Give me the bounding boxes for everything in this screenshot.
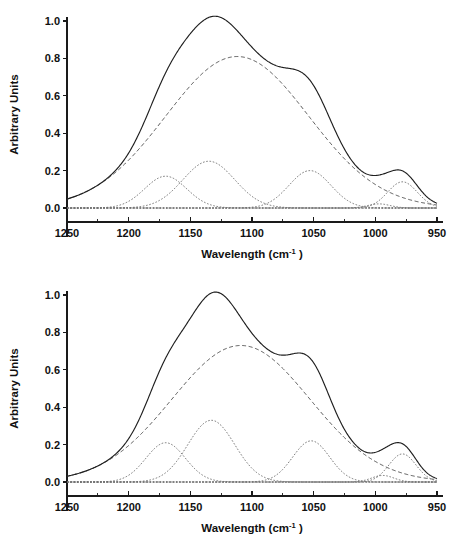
x-tick-label: 1200	[116, 227, 140, 239]
spectrum-panel-bottom: 0.00.20.40.60.81.01250120011501100105010…	[0, 274, 455, 547]
x-tick-label: 1000	[363, 501, 387, 513]
y-tick-label: 0.0	[45, 202, 60, 214]
component-curve-1170	[67, 443, 437, 482]
envelope-curve	[67, 16, 437, 203]
x-tick-label: 1050	[301, 227, 325, 239]
y-axis-title: Arbitrary Units	[8, 348, 20, 429]
x-tick-label: 950	[428, 227, 446, 239]
y-tick-label: 0.8	[45, 326, 60, 338]
x-axis-title-tail: )	[296, 522, 303, 534]
y-tick-label: 0.8	[45, 52, 60, 64]
x-tick-label: 1150	[178, 501, 202, 513]
x-tick-label: 1200	[116, 501, 140, 513]
y-tick-label: 0.6	[45, 364, 60, 376]
x-tick-label: 1250	[55, 227, 79, 239]
x-tick-label: 1050	[301, 501, 325, 513]
x-tick-label: 1100	[240, 501, 264, 513]
broad-component-curve	[67, 345, 437, 479]
y-tick-label: 1.0	[45, 289, 60, 301]
y-tick-label: 0.2	[45, 439, 60, 451]
x-tick-label: 1150	[178, 227, 202, 239]
broad-component-curve	[67, 57, 437, 205]
x-axis-title-superscript: -1	[289, 247, 296, 256]
x-axis-title-superscript: -1	[289, 521, 296, 530]
x-tick-label: 950	[428, 501, 446, 513]
y-tick-label: 0.4	[45, 127, 61, 139]
x-tick-label: 1100	[240, 227, 264, 239]
component-curve-1135	[67, 161, 437, 208]
spectra-figure: 0.00.20.40.60.81.01250120011501100105010…	[0, 0, 455, 547]
spectrum-panel-top: 0.00.20.40.60.81.01250120011501100105010…	[0, 0, 455, 273]
y-tick-label: 1.0	[45, 15, 60, 27]
component-curve-1053	[67, 171, 437, 208]
component-curve-1170	[67, 176, 437, 208]
y-tick-label: 0.0	[45, 476, 60, 488]
y-tick-label: 0.4	[45, 401, 61, 413]
y-tick-label: 0.2	[45, 165, 60, 177]
x-tick-label: 1250	[55, 501, 79, 513]
x-tick-label: 1000	[363, 227, 387, 239]
spectrum-plot-bottom: 0.00.20.40.60.81.01250120011501100105010…	[0, 274, 455, 547]
x-axis-title-tail: )	[296, 248, 303, 260]
y-tick-label: 0.6	[45, 90, 60, 102]
x-axis-title: Wavelength (cm-1 )	[201, 247, 303, 260]
component-curve-994	[67, 475, 437, 482]
x-axis-title: Wavelength (cm-1 )	[201, 521, 303, 534]
y-axis-title: Arbitrary Units	[8, 74, 20, 155]
spectrum-plot-top: 0.00.20.40.60.81.01250120011501100105010…	[0, 0, 455, 273]
